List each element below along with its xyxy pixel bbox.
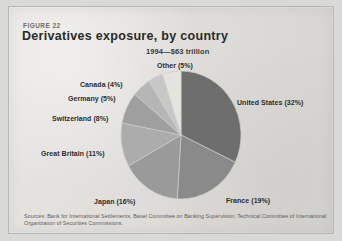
- figure-title: Derivatives exposure, by country: [22, 29, 228, 43]
- pie-slice-group: [121, 71, 241, 199]
- pie-label-switzerland: Switzerland (8%): [52, 115, 108, 122]
- figure-number-label: FIGURE 22: [23, 22, 61, 29]
- pie-label-united-states: United States (32%): [237, 99, 303, 106]
- pie-label-canada: Canada (4%): [80, 81, 123, 88]
- pie-label-germany: Germany (5%): [68, 95, 116, 102]
- pie-label-great-britain: Great Britain (11%): [41, 150, 105, 157]
- pie-chart: [119, 69, 243, 201]
- source-note: Sources: Bank for International Settleme…: [24, 213, 330, 228]
- figure-subtitle: 1994—$63 trillion: [146, 47, 209, 56]
- pie-label-japan: Japan (16%): [94, 198, 135, 205]
- figure-panel: FIGURE 22 Derivatives exposure, by count…: [8, 6, 334, 234]
- pie-label-other: Other (5%): [157, 62, 193, 69]
- pie-chart-svg: [119, 69, 243, 201]
- pie-label-france: France (19%): [226, 197, 270, 204]
- figure-card: FIGURE 22 Derivatives exposure, by count…: [0, 0, 342, 241]
